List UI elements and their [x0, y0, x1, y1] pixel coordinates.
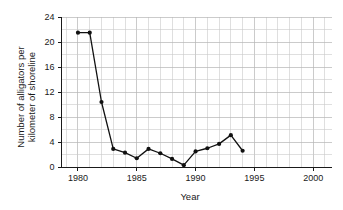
chart-background [0, 0, 343, 210]
data-point [123, 151, 127, 155]
data-point [88, 31, 92, 35]
y-tick-label: 0 [49, 162, 54, 172]
x-tick-label: 1995 [244, 173, 264, 183]
y-axis-title-line2: kilometer of shoreline [26, 52, 37, 142]
y-axis-title-line1: Number of alligators per [15, 46, 26, 147]
data-point [193, 149, 197, 153]
data-point [111, 147, 115, 151]
y-tick-label: 4 [49, 137, 54, 147]
data-point [241, 149, 245, 153]
y-tick-label: 24 [44, 12, 54, 22]
data-point [205, 146, 209, 150]
chart-container: 19801985199019952000 04812162024 Year Nu… [0, 0, 343, 210]
data-point [146, 147, 150, 151]
x-tick-label: 1990 [186, 173, 206, 183]
data-point [217, 142, 221, 146]
y-tick-label: 12 [44, 87, 54, 97]
x-tick-label: 1980 [68, 173, 88, 183]
data-point [170, 157, 174, 161]
line-chart: 19801985199019952000 04812162024 Year Nu… [0, 0, 343, 210]
data-point [229, 133, 233, 137]
data-point [76, 31, 80, 35]
y-tick-label: 16 [44, 62, 54, 72]
data-point [135, 156, 139, 160]
y-axis-title: Number of alligators per kilometer of sh… [15, 46, 37, 147]
x-tick-label: 2000 [303, 173, 323, 183]
data-point [158, 151, 162, 155]
data-point [99, 100, 103, 104]
x-tick-label: 1985 [127, 173, 147, 183]
y-tick-label: 20 [44, 37, 54, 47]
x-axis-title: Year [180, 191, 199, 202]
data-point [182, 163, 186, 167]
y-tick-label: 8 [49, 112, 54, 122]
